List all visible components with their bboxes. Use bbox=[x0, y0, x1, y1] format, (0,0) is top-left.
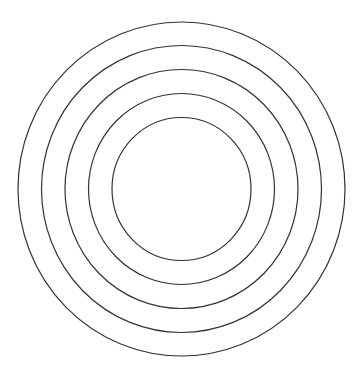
concentric-circles-diagram bbox=[0, 0, 361, 372]
circle-ring-5 bbox=[112, 118, 251, 261]
circle-ring-2 bbox=[42, 46, 322, 333]
circle-ring-1 bbox=[18, 22, 345, 356]
circle-ring-3 bbox=[65, 70, 298, 309]
circle-ring-4 bbox=[89, 94, 275, 285]
